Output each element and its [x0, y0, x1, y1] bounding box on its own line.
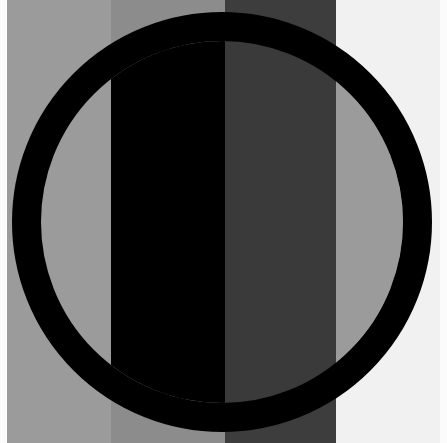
illusion-svg: [0, 0, 447, 443]
illusion-figure: [0, 0, 447, 443]
